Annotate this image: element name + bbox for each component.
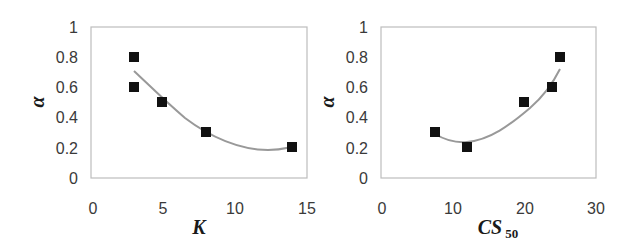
xtick-left: 15 [298, 200, 316, 217]
ytick-right: 0 [359, 170, 368, 187]
xlabel-right-subscript: 50 [505, 226, 518, 241]
ytick-right: 0.8 [346, 49, 368, 66]
ytick-left: 0.6 [56, 79, 78, 96]
xtick-right: 30 [587, 200, 605, 217]
ytick-right: 0.4 [346, 109, 368, 126]
data-point [129, 82, 139, 92]
data-point [547, 82, 557, 92]
xtick-right: 10 [444, 200, 462, 217]
ytick-left: 0.2 [56, 140, 78, 157]
xtick-left: 10 [226, 200, 244, 217]
ytick-left: 0.4 [56, 109, 78, 126]
xlabel-right-main: CS [478, 216, 502, 238]
xtick-right: 0 [378, 200, 387, 217]
data-point [157, 97, 167, 107]
ytick-left: 1 [69, 19, 78, 36]
ylabel-left: α [26, 96, 48, 108]
ytick-right: 1 [359, 19, 368, 36]
data-point [201, 127, 211, 137]
xtick-left: 0 [89, 200, 98, 217]
data-point [430, 127, 440, 137]
data-point [287, 142, 297, 152]
ytick-left: 0.8 [56, 49, 78, 66]
chart-right: 1 0.8 0.6 0.4 0.2 0 0 10 20 30 CS50 α [316, 19, 605, 241]
xtick-left: 5 [159, 200, 168, 217]
chart-canvas: 1 0.8 0.6 0.4 0.2 0 0 5 10 15 K α 1 0.8 … [0, 0, 631, 246]
xlabel-left: K [191, 216, 207, 238]
plot-area-left [91, 27, 307, 178]
ytick-left: 0 [69, 170, 78, 187]
ylabel-right: α [316, 96, 338, 108]
data-point [129, 52, 139, 62]
xtick-right: 20 [516, 200, 534, 217]
ytick-right: 0.2 [346, 140, 368, 157]
ytick-right: 0.6 [346, 79, 368, 96]
data-point [555, 52, 565, 62]
data-point [519, 97, 529, 107]
chart-left: 1 0.8 0.6 0.4 0.2 0 0 5 10 15 K α [26, 19, 316, 238]
xlabel-right: CS50 [478, 216, 518, 241]
plot-area-right [381, 27, 596, 178]
data-point [462, 142, 472, 152]
